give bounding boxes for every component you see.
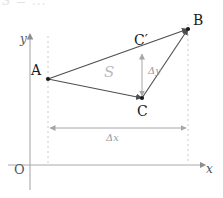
figure-canvas xyxy=(0,0,223,198)
point-label-A: A xyxy=(31,63,41,77)
vertex-dot-B xyxy=(186,27,190,31)
geometry-figure: S = ... xyxy=(0,0,223,198)
point-label-C: C xyxy=(137,104,148,118)
edge-A-to-C xyxy=(48,79,142,98)
point-label-C-prime: C′ xyxy=(134,33,148,47)
origin-label: O xyxy=(14,163,25,176)
edge-A-to-B xyxy=(48,29,188,79)
point-label-B: B xyxy=(193,13,203,27)
delta-y-label: Δy xyxy=(148,66,161,76)
x-axis-label: x xyxy=(206,163,213,175)
vertex-dot-C xyxy=(140,96,144,100)
edge-C-to-B xyxy=(142,29,188,98)
area-label-S: S xyxy=(104,65,114,80)
y-axis-label: y xyxy=(20,33,27,45)
vertex-dot-A xyxy=(46,77,50,81)
delta-x-label: Δx xyxy=(106,133,119,143)
